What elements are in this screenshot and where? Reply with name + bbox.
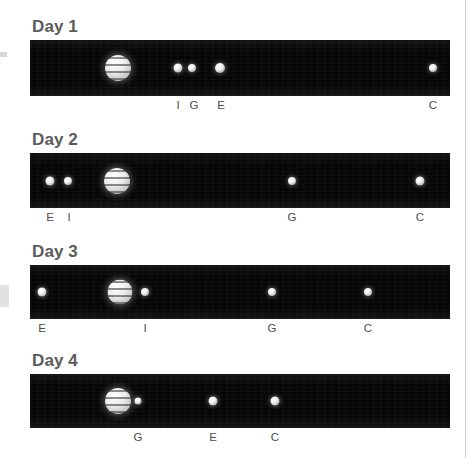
moon-callisto	[416, 176, 425, 185]
day-panel-2: Day 2 E I G C	[30, 131, 450, 226]
sky-strip	[30, 40, 450, 96]
moon-ganymede	[188, 64, 196, 72]
moon-label-europa: E	[46, 210, 54, 224]
day-panel-3: Day 3 E I G C	[30, 243, 450, 337]
moon-label-europa: E	[217, 98, 225, 112]
moon-io	[174, 64, 183, 73]
moon-europa	[46, 176, 55, 185]
moon-label-row: I G E C	[30, 96, 450, 114]
moon-ganymede	[288, 177, 296, 185]
moon-label-callisto: C	[364, 321, 372, 335]
day-title: Day 2	[32, 131, 450, 148]
jupiter-disk	[104, 168, 130, 194]
moon-label-io: I	[67, 210, 70, 224]
moon-callisto	[364, 288, 372, 296]
moon-label-callisto: C	[416, 210, 424, 224]
moon-europa	[209, 397, 218, 406]
moon-callisto	[429, 64, 437, 72]
day-title: Day 1	[32, 18, 450, 35]
sky-strip	[30, 265, 450, 319]
moon-io	[141, 288, 149, 296]
jupiter-disk	[108, 280, 133, 305]
jupiter-disk	[105, 388, 131, 414]
day-panel-4: Day 4 G E C	[30, 352, 450, 446]
scan-artifact-top	[0, 52, 7, 57]
moon-label-io: I	[176, 98, 179, 112]
moon-label-ganymede: G	[288, 210, 297, 224]
day-panel-1: Day 1 I G E C	[30, 18, 450, 114]
moon-io	[64, 177, 72, 185]
moon-label-ganymede: G	[134, 430, 143, 444]
day-title: Day 4	[32, 352, 450, 369]
moon-label-europa: E	[209, 430, 217, 444]
moon-label-row: E I G C	[30, 319, 450, 337]
moon-callisto	[271, 397, 280, 406]
moon-ganymede	[135, 398, 142, 405]
moon-label-ganymede: G	[190, 98, 199, 112]
moon-label-ganymede: G	[268, 321, 277, 335]
page-scan-edge	[465, 0, 466, 458]
moon-europa	[38, 288, 47, 297]
sky-strip	[30, 374, 450, 428]
moon-label-callisto: C	[429, 98, 437, 112]
moon-label-europa: E	[38, 321, 46, 335]
moon-label-row: G E C	[30, 428, 450, 446]
day-title: Day 3	[32, 243, 450, 260]
moon-label-io: I	[143, 321, 146, 335]
scan-artifact-middle	[0, 285, 9, 307]
moon-ganymede	[268, 288, 276, 296]
moon-europa	[215, 63, 225, 73]
jupiter-disk	[105, 55, 131, 81]
moon-label-row: E I G C	[30, 208, 450, 226]
sky-strip	[30, 153, 450, 208]
figure-page: Day 1 I G E C Day 2 E I G C	[0, 0, 473, 458]
moon-label-callisto: C	[271, 430, 279, 444]
